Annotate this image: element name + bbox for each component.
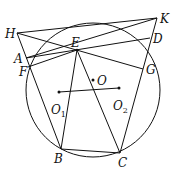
segment-HG [17,33,143,69]
label-O: O [97,75,107,87]
point-O1 [58,91,61,94]
label-D: D [153,33,163,45]
label-C: C [118,157,127,169]
segment-O1O2 [59,88,119,92]
label-H: H [5,28,15,40]
label-E: E [71,37,80,49]
label-O2-sub: 2 [123,106,128,115]
diagram-canvas [0,0,176,175]
segment-EB [61,50,77,149]
segment-HK [17,18,157,33]
label-B: B [54,153,63,165]
segment-KC [120,18,157,153]
label-O1-sub: 1 [61,110,66,119]
point-O2 [118,87,121,90]
label-K: K [160,13,169,25]
geometry-diagram: H K D E A F G O O1 O2 B C [0,0,176,175]
segment-AK [26,18,157,58]
label-O1: O1 [51,104,66,119]
points [58,49,121,94]
segment-FE [28,50,77,67]
label-F: F [19,66,27,78]
label-G: G [146,64,156,76]
label-O2-main: O [113,99,123,113]
label-A: A [14,53,23,65]
label-O2: O2 [113,100,128,115]
label-O1-main: O [51,103,61,117]
point-O [92,79,95,82]
